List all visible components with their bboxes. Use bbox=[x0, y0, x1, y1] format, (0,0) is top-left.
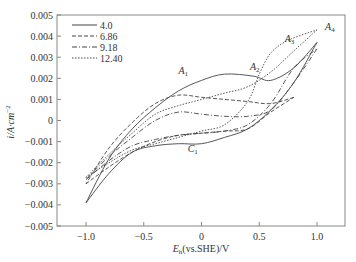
legend-label: 4.0 bbox=[100, 20, 113, 31]
x-tick-label: −0.5 bbox=[135, 231, 153, 242]
legend-label: 12.40 bbox=[100, 53, 123, 64]
y-tick-label: 0.004 bbox=[31, 31, 54, 42]
y-tick-label: 0 bbox=[48, 115, 53, 126]
curve-6.86-reverse bbox=[86, 95, 294, 184]
y-tick-label: −0.001 bbox=[25, 136, 53, 147]
annotation-C1: C1 bbox=[188, 143, 199, 156]
y-axis-ticks: 0.0050.0040.0030.0020.0010−0.001−0.002−0… bbox=[25, 10, 61, 232]
peak-annotations: A1A2A3A4C1 bbox=[177, 21, 335, 156]
curve-4.0-reverse bbox=[86, 42, 317, 202]
y-axis-label: i/A·cm−2 bbox=[4, 105, 16, 139]
y-tick-label: −0.004 bbox=[25, 199, 53, 210]
annotation-A3: A3 bbox=[284, 33, 295, 46]
y-tick-label: −0.002 bbox=[25, 157, 53, 168]
x-axis-label: Eh(vs.SHE)/V bbox=[172, 243, 230, 256]
y-tick-label: 0.003 bbox=[31, 52, 54, 63]
x-tick-label: 1.0 bbox=[311, 231, 324, 242]
y-tick-label: −0.003 bbox=[25, 178, 53, 189]
curve-4.0-forward bbox=[86, 42, 317, 202]
y-tick-label: 0.005 bbox=[31, 10, 54, 21]
y-tick-label: −0.005 bbox=[25, 221, 53, 232]
y-tick-label: 0.001 bbox=[31, 94, 54, 105]
x-tick-label: 0.5 bbox=[253, 231, 266, 242]
y-tick-label: 0.002 bbox=[31, 73, 54, 84]
curve-6.86-forward bbox=[86, 97, 294, 184]
annotation-A2: A2 bbox=[249, 61, 260, 74]
x-tick-label: −1.0 bbox=[77, 231, 95, 242]
annotation-A4: A4 bbox=[324, 21, 335, 34]
curve-9.18-reverse bbox=[86, 49, 317, 180]
legend: 4.06.869.1812.40 bbox=[72, 20, 123, 64]
annotation-A1: A1 bbox=[177, 65, 188, 78]
legend-label: 9.18 bbox=[100, 42, 118, 53]
legend-label: 6.86 bbox=[100, 31, 118, 42]
x-tick-label: 0 bbox=[199, 231, 204, 242]
cyclic-voltammetry-chart: 0.0050.0040.0030.0020.0010−0.001−0.002−0… bbox=[0, 0, 356, 262]
x-axis-ticks: −1.0−0.500.51.0 bbox=[77, 222, 323, 242]
